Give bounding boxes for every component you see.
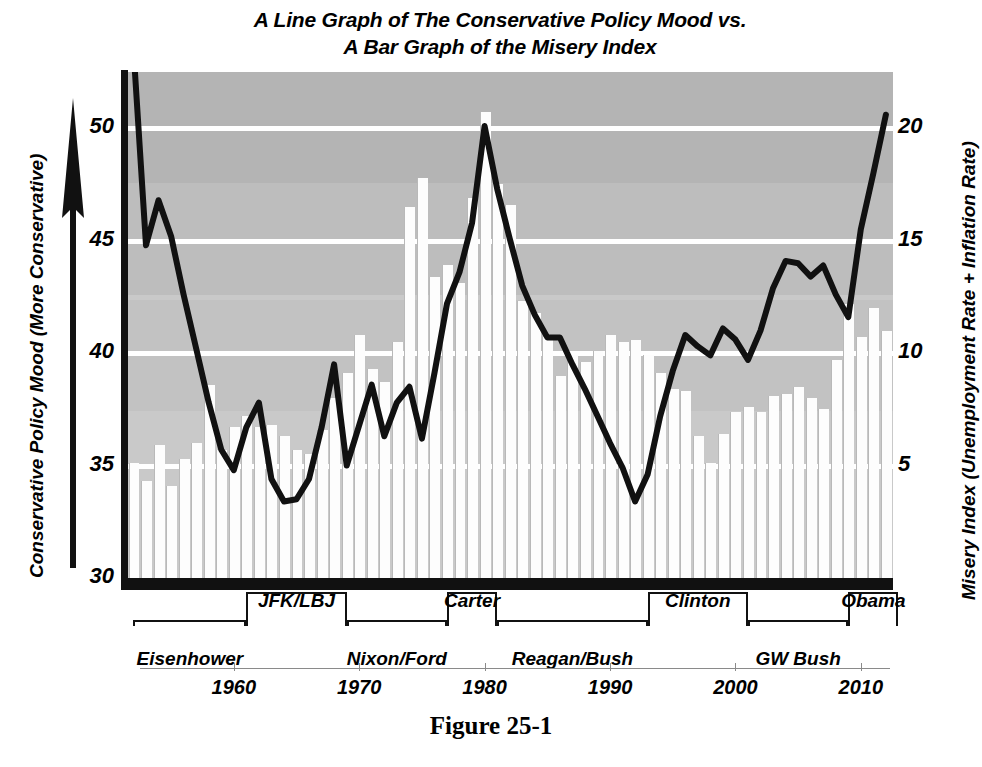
president-term-segment: [133, 620, 246, 626]
president-terms-band: EisenhowerJFK/LBJNixon/FordCarterReagan/…: [121, 592, 893, 654]
x-axis-tick-label: 1980: [445, 676, 525, 699]
president-term-label: JFK/LBJ: [186, 590, 406, 612]
bottom-axis-spine: [121, 578, 893, 590]
x-axis-tick: [485, 663, 486, 671]
president-term-label: Clinton: [588, 590, 808, 612]
left-axis-tick-label: 45: [68, 226, 114, 252]
x-axis-line: [140, 668, 890, 669]
president-term-label: Reagan/Bush: [437, 648, 707, 670]
left-axis-tick-label: 35: [68, 451, 114, 477]
x-axis-tick-label: 1990: [570, 676, 650, 699]
left-axis-spine: [121, 70, 128, 582]
left-axis-tick-label: 50: [68, 113, 114, 139]
president-term-segment: [497, 620, 647, 626]
president-term-segment: [748, 620, 848, 626]
left-axis-tick-label: 40: [68, 338, 114, 364]
x-axis-tick-label: 2000: [695, 676, 775, 699]
left-axis-title: Conservative Policy Mood (More Conservat…: [26, 154, 48, 578]
left-axis-tick-label: 30: [68, 563, 114, 589]
up-arrow-icon: [60, 98, 86, 568]
policy-mood-line: [128, 72, 893, 578]
chart-title: A Line Graph of The Conservative Policy …: [150, 6, 850, 60]
x-axis-tick: [861, 663, 862, 671]
president-term-label: Eisenhower: [73, 648, 306, 670]
x-axis-tick-label: 1960: [194, 676, 274, 699]
policy-mood-line-path: [134, 72, 886, 502]
right-axis-title: Misery Index (Unemployment Rate + Inflat…: [958, 141, 980, 600]
president-term-label: Obama: [788, 590, 958, 612]
right-axis-tick-label: 20: [898, 113, 944, 139]
chart-title-line-1: A Line Graph of The Conservative Policy …: [150, 6, 850, 33]
right-axis-tick-label: 5: [898, 451, 944, 477]
x-axis-tick: [359, 663, 360, 671]
plot-area: [128, 72, 893, 578]
president-term-label: GW Bush: [688, 648, 908, 670]
x-axis-tick: [610, 663, 611, 671]
president-term-label: Carter: [387, 590, 557, 612]
right-axis-tick-label: 10: [898, 338, 944, 364]
x-axis-tick-label: 2010: [821, 676, 901, 699]
chart-title-line-2: A Bar Graph of the Misery Index: [150, 33, 850, 60]
x-axis-tick: [735, 663, 736, 671]
president-term-segment: [347, 620, 447, 626]
figure-caption: Figure 25-1: [0, 712, 982, 740]
x-axis-tick: [234, 663, 235, 671]
figure-25-1: A Line Graph of The Conservative Policy …: [0, 0, 982, 767]
right-axis-tick-label: 15: [898, 226, 944, 252]
x-axis-tick-label: 1970: [319, 676, 399, 699]
